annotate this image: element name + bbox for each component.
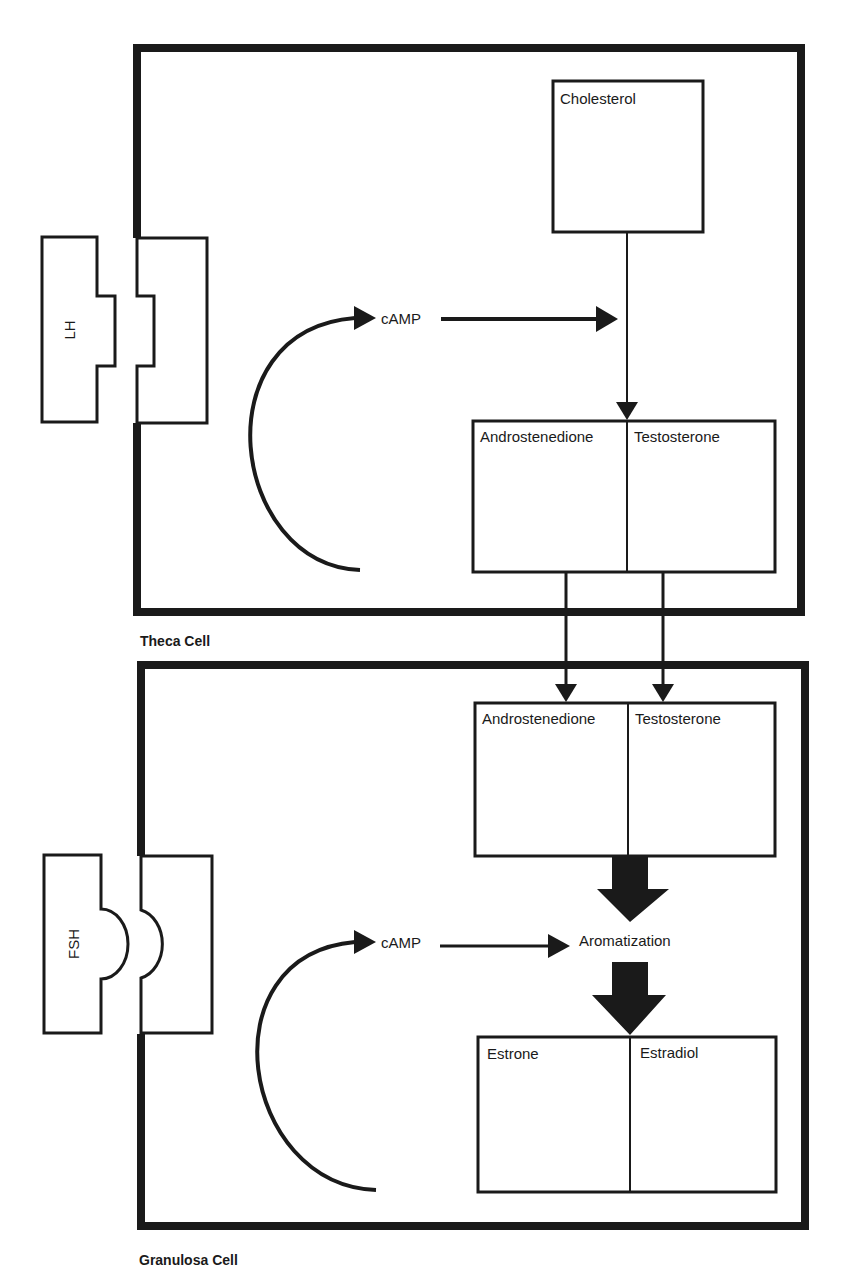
- lh-label: LH: [61, 320, 78, 339]
- granulosa-arc-arrowhead-icon: [354, 930, 376, 954]
- lh-hormone: LH: [42, 237, 115, 422]
- androgen-transfer: [555, 572, 674, 702]
- theca-camp-arrowhead-icon: [596, 306, 618, 332]
- fsh-hormone: FSH: [44, 855, 128, 1033]
- granulosa-androstenedione-label: Androstenedione: [482, 710, 595, 727]
- androstenedione-transfer-arrowhead-icon: [555, 684, 577, 702]
- testosterone-transfer-arrowhead-icon: [652, 684, 674, 702]
- lh-receptor: [137, 238, 207, 423]
- granulosa-testosterone-label: Testosterone: [635, 710, 721, 727]
- theca-arc-arrowhead-icon: [354, 306, 376, 330]
- aromatization-label: Aromatization: [579, 932, 671, 949]
- theca-signal-arc: [250, 318, 360, 570]
- estradiol-label: Estradiol: [640, 1044, 698, 1061]
- aromatization-input-arrow-icon: [597, 856, 669, 922]
- granulosa-signal-arc: [257, 942, 376, 1190]
- aromatization-output-arrow-icon: [592, 962, 666, 1035]
- granulosa-cell: FSH cAMP Aromatization Androstenedione T…: [44, 665, 805, 1226]
- estrone-label: Estrone: [487, 1045, 539, 1062]
- theca-androstenedione-label: Androstenedione: [480, 428, 593, 445]
- granulosa-cell-caption: Granulosa Cell: [139, 1252, 238, 1268]
- diagram-canvas: LH cAMP Cholesterol Androstenedione Test…: [0, 0, 845, 1281]
- granulosa-camp-arrowhead-icon: [548, 934, 570, 958]
- cholesterol-arrowhead-icon: [616, 402, 638, 420]
- fsh-receptor: [141, 856, 212, 1033]
- theca-testosterone-label: Testosterone: [634, 428, 720, 445]
- theca-cell-caption: Theca Cell: [140, 633, 210, 649]
- fsh-label: FSH: [65, 929, 82, 959]
- theca-camp-label: cAMP: [381, 310, 421, 327]
- cholesterol-label: Cholesterol: [560, 90, 636, 107]
- granulosa-camp-label: cAMP: [381, 934, 421, 951]
- theca-cell: LH cAMP Cholesterol Androstenedione Test…: [42, 48, 801, 612]
